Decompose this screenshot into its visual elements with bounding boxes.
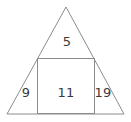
region-label-center: 11 (58, 85, 75, 100)
region-label-top: 5 (63, 34, 71, 49)
region-label-right: 19 (95, 85, 112, 100)
geometry-figure: 5 9 11 19 (0, 0, 131, 122)
figure-canvas: 5 9 11 19 (0, 0, 131, 122)
region-label-left: 9 (22, 85, 30, 100)
